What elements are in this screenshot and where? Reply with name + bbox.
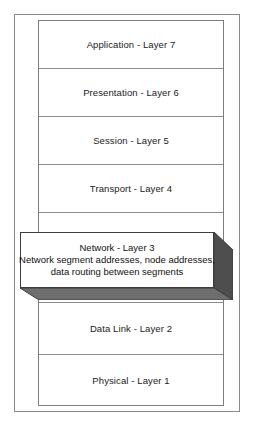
callout-description-line-1: Network segment addresses, node addresse…	[19, 254, 215, 266]
layer-row-application[interactable]: Application - Layer 7	[39, 21, 223, 69]
osi-layer-stack: Application - Layer 7 Presentation - Lay…	[38, 20, 224, 406]
callout-title: Network - Layer 3	[80, 242, 155, 253]
layer-label-data-link: Data Link - Layer 2	[90, 323, 172, 334]
layer-label-presentation: Presentation - Layer 6	[83, 87, 179, 98]
layer-row-physical[interactable]: Physical - Layer 1	[39, 355, 223, 405]
layer-label-physical: Physical - Layer 1	[92, 375, 169, 386]
callout-description-line-2: data routing between segments	[51, 266, 184, 278]
osi-layer-diagram: Application - Layer 7 Presentation - Lay…	[0, 0, 256, 426]
layer-row-data-link[interactable]: Data Link - Layer 2	[39, 303, 223, 355]
layer-row-session[interactable]: Session - Layer 5	[39, 117, 223, 165]
layer-label-session: Session - Layer 5	[93, 135, 169, 146]
layer-label-application: Application - Layer 7	[87, 39, 176, 50]
layer-row-presentation[interactable]: Presentation - Layer 6	[39, 69, 223, 117]
callout-front-face: Network - Layer 3 Network segment addres…	[20, 232, 214, 288]
layer-label-transport: Transport - Layer 4	[90, 183, 172, 194]
layer-row-transport[interactable]: Transport - Layer 4	[39, 165, 223, 213]
network-layer-callout[interactable]: Network - Layer 3 Network segment addres…	[20, 232, 233, 300]
callout-bottom-face	[20, 288, 233, 300]
